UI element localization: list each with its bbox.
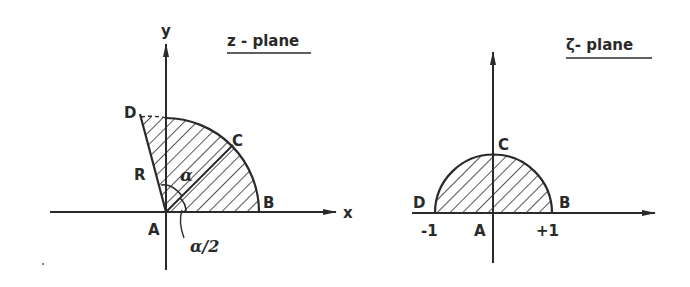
zeta-point-C-label: C <box>498 136 509 154</box>
zeta-tick-plus-one: +1 <box>536 222 559 240</box>
z-plane-panel: y x z - plane D C R B A α α/2 <box>42 22 353 270</box>
z-point-A-label: A <box>148 221 160 239</box>
zeta-plane-title: ζ- plane <box>566 36 633 54</box>
z-plane-title: z - plane <box>227 32 299 50</box>
z-angle-alpha-label: α <box>180 165 193 185</box>
z-point-C-label: C <box>232 132 243 150</box>
zeta-point-B-label: B <box>559 194 570 212</box>
z-point-D-label: D <box>124 104 136 122</box>
zeta-point-A-label: A <box>474 222 486 240</box>
z-plane-sector-region <box>140 116 259 212</box>
z-half-angle-label: α/2 <box>190 237 219 256</box>
zeta-tick-minus-one: -1 <box>421 222 438 240</box>
z-plane-y-axis-label: y <box>161 22 171 40</box>
z-plane-x-axis-label: x <box>343 204 353 222</box>
z-point-B-label: B <box>263 194 274 212</box>
stray-mark <box>42 263 44 265</box>
zeta-point-D-label: D <box>413 194 425 212</box>
z-point-R-label: R <box>134 166 146 184</box>
conformal-map-diagram: y x z - plane D C R B A α α/2 ζ- plane C… <box>0 0 690 287</box>
half-alpha-leader <box>180 210 184 238</box>
zeta-plane-panel: ζ- plane C D B A -1 +1 <box>412 36 655 263</box>
